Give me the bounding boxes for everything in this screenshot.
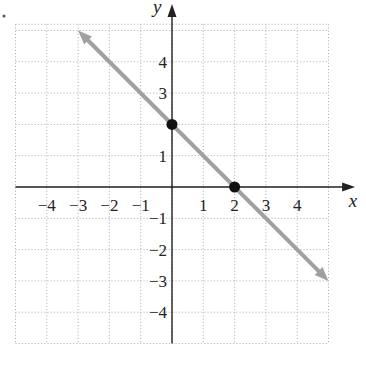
data-point [229, 182, 240, 193]
data-point [167, 119, 178, 130]
axes [16, 4, 356, 344]
y-tick-label: 1 [159, 147, 168, 166]
x-tick-label: −3 [69, 196, 87, 215]
y-tick-label: −2 [149, 241, 167, 260]
x-tick-label: −4 [38, 196, 57, 215]
x-tick-label: 3 [262, 196, 271, 215]
bullet-dot [3, 15, 6, 18]
x-tick-label: 4 [293, 196, 302, 215]
y-axis-label: y [151, 0, 162, 17]
y-tick-label: 3 [159, 84, 168, 103]
y-tick-label: −4 [149, 303, 168, 322]
tick-labels: xy−4−3−2−11234−4−3−2−1134 [38, 0, 358, 322]
y-tick-label: −3 [149, 272, 167, 291]
x-tick-label: −2 [100, 196, 118, 215]
x-tick-label: 2 [230, 196, 239, 215]
y-tick-label: −1 [149, 209, 167, 228]
x-tick-label: −1 [132, 196, 150, 215]
x-axis-label: x [348, 190, 358, 211]
y-tick-label: 4 [159, 53, 168, 72]
x-tick-label: 1 [199, 196, 208, 215]
coordinate-plane: xy−4−3−2−11234−4−3−2−1134 [0, 0, 366, 372]
